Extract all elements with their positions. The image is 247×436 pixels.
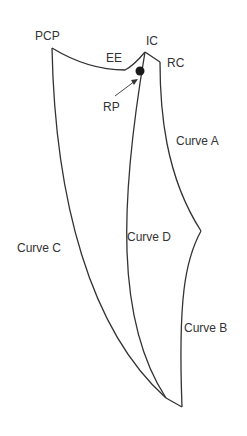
label-curve-c: Curve C xyxy=(17,242,61,254)
rp-arrow-head-icon xyxy=(131,79,138,85)
curve-diagram: PCP EE IC RC RP Curve A Curve D Curve C … xyxy=(0,0,247,436)
label-curve-d: Curve D xyxy=(127,231,171,243)
label-ic: IC xyxy=(146,35,158,47)
label-rc: RC xyxy=(167,57,184,69)
top-edge-ee xyxy=(52,48,145,70)
label-curve-a: Curve A xyxy=(176,135,219,147)
ic-rc-edge xyxy=(145,52,160,62)
curve-b-line xyxy=(181,231,201,407)
rp-arrow-line xyxy=(115,81,135,96)
diagram-drawing xyxy=(0,0,247,436)
label-pcp: PCP xyxy=(35,30,60,42)
bottom-edge xyxy=(166,398,182,407)
curve-d-line xyxy=(127,52,166,398)
rp-point-dot xyxy=(136,67,145,76)
label-ee: EE xyxy=(106,52,122,64)
label-rp: RP xyxy=(103,101,120,113)
label-curve-b: Curve B xyxy=(184,322,227,334)
